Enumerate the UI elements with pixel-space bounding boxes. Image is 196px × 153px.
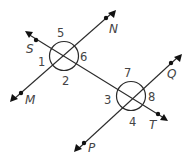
arrow-n-icon — [108, 10, 116, 18]
label-s: S — [26, 42, 34, 56]
label-t: T — [149, 118, 158, 132]
label-q: Q — [167, 67, 176, 81]
point-t-dot — [156, 112, 160, 116]
intersection-circle-2 — [117, 82, 146, 111]
label-p: P — [88, 141, 96, 153]
angle-label-1: 1 — [38, 55, 45, 69]
transversal-diagram: S T M N P Q 5 1 6 2 7 3 8 4 — [0, 0, 196, 153]
label-n: N — [109, 22, 118, 36]
diagram-canvas: S T M N P Q 5 1 6 2 7 3 8 4 — [0, 0, 196, 153]
angle-label-3: 3 — [104, 93, 111, 107]
point-n-dot — [104, 16, 108, 20]
point-m-dot — [19, 91, 23, 95]
angle-label-4: 4 — [129, 115, 136, 129]
arrow-p-icon — [74, 144, 82, 152]
point-p-dot — [82, 141, 86, 145]
arrow-q-icon — [174, 54, 182, 62]
point-s-dot — [34, 38, 38, 42]
arrow-t-icon — [160, 114, 168, 121]
transversal-line-st — [28, 34, 164, 118]
angle-label-2: 2 — [62, 74, 69, 88]
angle-label-8: 8 — [148, 90, 155, 104]
label-m: M — [25, 93, 36, 107]
angle-label-6: 6 — [80, 50, 87, 64]
angle-label-5: 5 — [57, 26, 64, 40]
point-q-dot — [169, 61, 173, 65]
angle-label-7: 7 — [124, 66, 131, 80]
arrow-m-icon — [10, 94, 18, 102]
